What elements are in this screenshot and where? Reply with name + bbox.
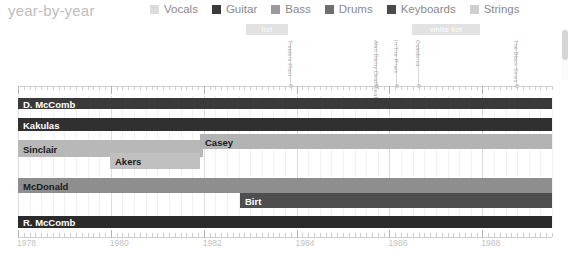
axis-tick-minor — [488, 86, 489, 90]
axis-tick-minor — [163, 233, 164, 237]
axis-tick-minor — [308, 86, 309, 90]
table-row: McDonald — [18, 178, 552, 193]
axis-tick-minor — [70, 86, 71, 90]
legend-item-keyboards[interactable]: Keyboards — [387, 3, 456, 15]
axis-tick-minor — [88, 233, 89, 237]
axis-tick-minor — [233, 86, 234, 90]
x-tick-label: 1984 — [296, 238, 315, 248]
axis-tick-minor — [268, 233, 269, 237]
axis-tick-minor — [41, 86, 42, 90]
event-marker-label: Treelers Plain — [287, 40, 293, 77]
axis-tick-minor — [221, 86, 222, 90]
axis-tick-minor — [331, 86, 332, 90]
axis-tick-minor — [152, 86, 153, 90]
axis-tick-minor — [186, 233, 187, 237]
bar-kakulas[interactable]: Kakulas — [18, 118, 552, 131]
axis-tick-minor — [343, 233, 344, 237]
axis-tick-minor — [401, 86, 402, 90]
legend-item-vocals[interactable]: Vocals — [150, 3, 198, 15]
axis-tick-minor — [70, 233, 71, 237]
axis-tick-minor — [250, 233, 251, 237]
axis-tick-minor — [372, 86, 373, 90]
axis-tick-minor — [314, 86, 315, 90]
axis-tick-major — [297, 230, 298, 238]
axis-tick-minor — [453, 86, 454, 90]
axis-tick-minor — [372, 233, 373, 237]
axis-tick-minor — [181, 233, 182, 237]
bar-label: Casey — [205, 136, 233, 147]
bar-label: McDonald — [23, 180, 68, 191]
axis-tick-minor — [93, 233, 94, 237]
axis-tick-minor — [134, 86, 135, 90]
axis-tick-minor — [221, 233, 222, 237]
legend-item-guitar[interactable]: Guitar — [212, 3, 257, 15]
x-axis-labels: 197819801982198419861988 — [18, 238, 552, 252]
legend-item-drums[interactable]: Drums — [325, 3, 373, 15]
table-row: Casey — [18, 134, 552, 149]
axis-tick-minor — [88, 86, 89, 90]
legend-swatch-icon — [271, 5, 280, 14]
axis-tick-major — [18, 86, 19, 94]
axis-tick-minor — [331, 233, 332, 237]
table-row: Birt — [18, 193, 552, 208]
axis-tick-minor — [250, 86, 251, 90]
axis-tick-minor — [215, 233, 216, 237]
axis-tick-minor — [30, 233, 31, 237]
axis-tick-major — [204, 86, 205, 94]
axis-tick-minor — [157, 86, 158, 90]
legend-item-strings[interactable]: Strings — [470, 3, 520, 15]
x-tick-label: 1986 — [388, 238, 407, 248]
bar-d-mccomb[interactable]: D. McComb — [18, 98, 552, 109]
axis-tick-minor — [378, 233, 379, 237]
bar-birt[interactable]: Birt — [240, 193, 552, 208]
axis-tick-minor — [47, 86, 48, 90]
bar-label: D. McComb — [23, 98, 75, 109]
plot-area: D. McCombKakulasSinclairCaseyAkersMcDona… — [18, 96, 552, 226]
axis-tick-minor — [384, 233, 385, 237]
axis-tick-minor — [239, 86, 240, 90]
bar-akers[interactable]: Akers — [110, 153, 200, 169]
axis-tick-minor — [506, 86, 507, 90]
axis-tick-minor — [407, 86, 408, 90]
axis-tick-minor — [302, 233, 303, 237]
axis-tick-minor — [169, 233, 170, 237]
axis-tick-minor — [523, 86, 524, 90]
axis-tick-minor — [459, 233, 460, 237]
axis-tick-minor — [360, 86, 361, 90]
axis-tick-minor — [262, 233, 263, 237]
axis-tick-minor — [105, 233, 106, 237]
axis-tick-minor — [529, 86, 530, 90]
axis-tick-minor — [477, 233, 478, 237]
axis-tick-minor — [523, 233, 524, 237]
axis-tick-minor — [465, 233, 466, 237]
axis-tick-minor — [506, 233, 507, 237]
scrollbar-thumb[interactable] — [562, 30, 568, 60]
axis-tick-minor — [471, 233, 472, 237]
axis-tick-minor — [355, 233, 356, 237]
axis-tick-major — [297, 86, 298, 94]
axis-tick-minor — [343, 86, 344, 90]
bar-casey[interactable]: Casey — [200, 134, 552, 149]
axis-tick-minor — [448, 233, 449, 237]
bar-mcdonald[interactable]: McDonald — [18, 178, 552, 193]
axis-tick-major — [389, 86, 390, 94]
bar-r-mccomb[interactable]: R. McComb — [18, 216, 552, 228]
axis-tick-minor — [366, 233, 367, 237]
axis-tick-minor — [239, 233, 240, 237]
axis-tick-major — [389, 230, 390, 238]
legend-swatch-icon — [470, 5, 479, 14]
axis-tick-minor — [82, 233, 83, 237]
axis-tick-minor — [76, 86, 77, 90]
axis-tick-minor — [210, 233, 211, 237]
axis-bottom — [18, 230, 552, 238]
axis-tick-minor — [273, 86, 274, 90]
axis-tick-minor — [192, 86, 193, 90]
axis-tick-minor — [30, 86, 31, 90]
axis-tick-minor — [349, 233, 350, 237]
axis-tick-minor — [430, 233, 431, 237]
axis-tick-minor — [262, 86, 263, 90]
axis-tick-minor — [105, 86, 106, 90]
axis-tick-minor — [430, 86, 431, 90]
legend-item-bass[interactable]: Bass — [271, 3, 311, 15]
axis-tick-minor — [268, 86, 269, 90]
